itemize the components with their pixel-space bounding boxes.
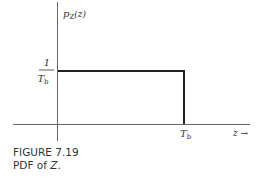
x-axis-label: z →: [232, 128, 249, 138]
x-tick-label: Tb: [180, 128, 192, 141]
y-tick-label: 1 Tb: [37, 57, 54, 86]
pdf-figure: pZ(z) 1 Tb Tb z → FIGURE 7.19 PDF of Z.: [0, 0, 270, 182]
figure-caption: FIGURE 7.19 PDF of Z.: [13, 146, 79, 172]
figure-title: PDF of Z.: [13, 159, 79, 172]
svg-text:Tb: Tb: [37, 73, 49, 86]
figure-number: FIGURE 7.19: [13, 146, 79, 159]
svg-text:1: 1: [44, 57, 50, 68]
y-axis-label: pZ(z): [63, 8, 87, 21]
pdf-curve: [58, 71, 184, 124]
